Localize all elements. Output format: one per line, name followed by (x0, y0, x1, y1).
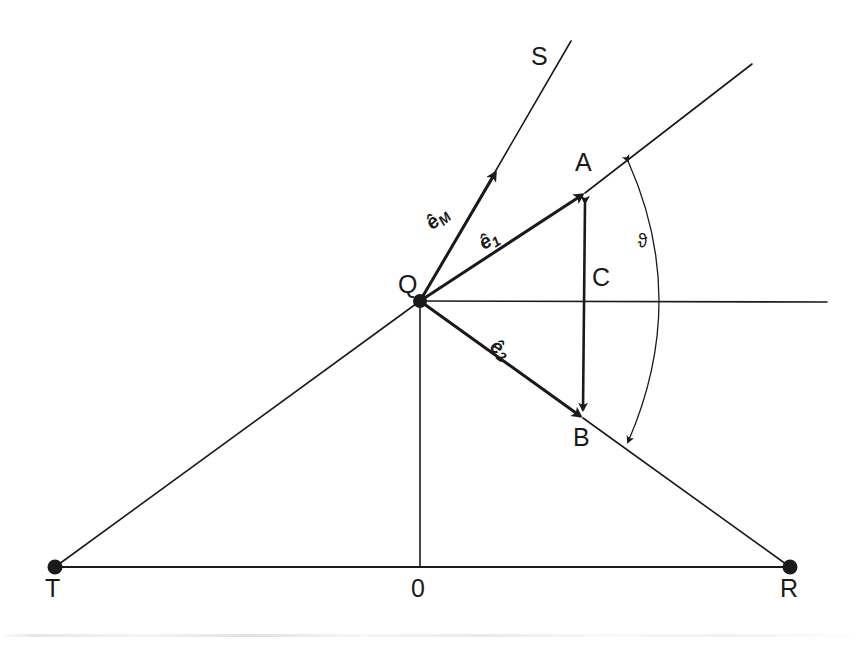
diagram-canvas: Q A B C T R 0 S êM ê1 ê2 ϑ (0, 0, 862, 647)
ray-QB-extension (583, 418, 790, 567)
point-label-R: R (780, 576, 799, 601)
segment-BA (583, 203, 585, 410)
point-dot-T (48, 560, 63, 575)
point-label-A: A (575, 150, 592, 175)
point-markers (48, 294, 798, 575)
point-label-Q: Q (398, 272, 418, 297)
line-QT (55, 301, 420, 567)
ray-QA-extension (585, 64, 752, 193)
point-label-T: T (45, 576, 61, 601)
horizontal-axis-QC (420, 301, 827, 302)
scan-artifact-line (0, 634, 862, 637)
point-label-C: C (592, 265, 611, 290)
point-label-B: B (573, 425, 590, 450)
point-label-S: S (531, 44, 548, 69)
diagram-svg (0, 0, 862, 647)
segment-BA-double-arrow (583, 203, 585, 410)
point-label-origin: 0 (411, 576, 425, 601)
point-dot-R (783, 560, 798, 575)
construction-lines (55, 41, 827, 567)
